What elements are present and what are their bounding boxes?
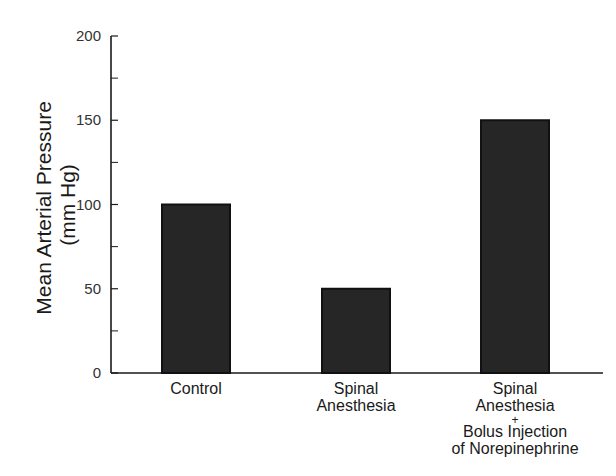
y-axis-title-line2: (mm Hg)	[56, 164, 79, 246]
category-label-line: Anesthesia	[475, 397, 554, 414]
y-tick-label: 150	[76, 111, 101, 128]
y-tick-label: 200	[76, 27, 101, 44]
category-label: Control	[170, 380, 222, 397]
bars	[162, 120, 549, 373]
y-tick-label: 0	[93, 364, 101, 381]
y-axis-title: Mean Arterial Pressure (mm Hg)	[32, 95, 79, 314]
category-label: SpinalAnesthesia	[316, 380, 395, 414]
category-label-line: Spinal	[493, 380, 537, 397]
category-label-line: Control	[170, 380, 222, 397]
y-tick-label: 100	[76, 196, 101, 213]
category-label-line: Anesthesia	[316, 397, 395, 414]
bar-1	[162, 205, 230, 374]
bar-2	[322, 289, 390, 373]
category-label-line: Bolus Injection	[463, 423, 567, 440]
bar-chart: 050100150200 ControlSpinalAnesthesiaSpin…	[0, 0, 616, 476]
category-label-line: of Norepinephrine	[451, 440, 578, 457]
bar-3	[481, 120, 549, 373]
category-label: SpinalAnesthesia+Bolus Injectionof Norep…	[451, 380, 578, 457]
y-axis: 050100150200	[76, 27, 118, 381]
category-labels: ControlSpinalAnesthesiaSpinalAnesthesia+…	[170, 380, 578, 457]
y-axis-title-line1: Mean Arterial Pressure	[32, 101, 55, 315]
category-label-line: Spinal	[334, 380, 378, 397]
y-tick-label: 50	[84, 280, 101, 297]
